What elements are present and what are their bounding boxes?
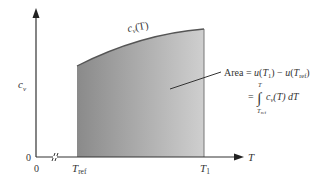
t-ref-label: Tref [72, 162, 87, 176]
area-equation-line1: Area = u(T1) − u(Tref) [224, 67, 310, 79]
area-equation-eq-sign: = [248, 91, 254, 102]
curve-label: cv(T) [126, 19, 150, 36]
y-axis-label: cv [18, 78, 27, 93]
y-axis-arrow-icon [33, 8, 40, 18]
integral-upper-limit: T [258, 81, 262, 88]
x-axis-label: T [248, 151, 255, 163]
specific-heat-area-diagram: cv 0 0 T Tref T1 cv(T) Area = u(T1) − u(… [0, 0, 328, 182]
x-origin-label: 0 [34, 163, 39, 174]
diagram-canvas: cv 0 0 T Tref T1 cv(T) Area = u(T1) − u(… [0, 0, 328, 182]
shaded-area-region [77, 29, 204, 157]
t1-label: T1 [200, 162, 210, 176]
integral-sign: ∫ [256, 90, 263, 107]
y-origin-label: 0 [26, 152, 31, 163]
x-axis-arrow-icon [234, 154, 244, 161]
integral-lower-limit: Tref [257, 107, 267, 115]
integrand: cv(T) dT [266, 91, 300, 103]
